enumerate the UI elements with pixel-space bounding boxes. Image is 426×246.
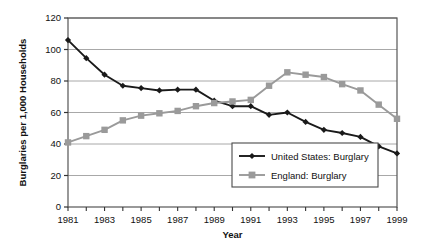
data-point <box>65 139 71 145</box>
y-tick-label: 80 <box>50 75 61 86</box>
x-tick-label: 1995 <box>313 214 334 225</box>
data-point <box>156 110 162 116</box>
x-tick-label: 1999 <box>386 214 407 225</box>
legend-label: England: Burglary <box>271 170 347 181</box>
x-tick-label: 1997 <box>350 214 371 225</box>
x-tick-label: 1985 <box>131 214 152 225</box>
data-point <box>83 133 89 139</box>
x-tick-label: 1987 <box>167 214 188 225</box>
data-point <box>394 116 400 122</box>
y-tick-label: 120 <box>45 12 61 23</box>
legend-label: United States: Burglary <box>271 151 369 162</box>
data-point <box>302 72 308 78</box>
data-point <box>357 87 363 93</box>
data-point <box>229 98 235 104</box>
y-axis-title: Burglaries per 1,000 Households <box>17 39 28 187</box>
y-tick-label: 0 <box>56 201 61 212</box>
y-tick-label: 40 <box>50 138 61 149</box>
legend[interactable]: United States: BurglaryEngland: Burglary <box>232 143 378 187</box>
data-point <box>321 74 327 80</box>
y-axis: 020406080100120 <box>45 12 68 212</box>
data-point <box>193 103 199 109</box>
y-tick-label: 60 <box>50 107 61 118</box>
x-tick-label: 1983 <box>94 214 115 225</box>
x-tick-label: 1991 <box>240 214 261 225</box>
data-point <box>101 127 107 133</box>
data-point <box>284 69 290 75</box>
x-axis-title: Year <box>222 229 242 240</box>
legend-marker <box>249 172 256 179</box>
data-point <box>248 97 254 103</box>
data-point <box>339 81 345 87</box>
y-tick-label: 20 <box>50 170 61 181</box>
x-tick-label: 1993 <box>277 214 298 225</box>
burglary-line-chart: 0204060801001201981198319851987198919911… <box>0 0 426 246</box>
data-point <box>138 112 144 118</box>
data-point <box>376 101 382 107</box>
chart-canvas: 0204060801001201981198319851987198919911… <box>0 0 426 246</box>
y-tick-label: 100 <box>45 44 61 55</box>
data-point <box>266 83 272 89</box>
x-tick-label: 1989 <box>204 214 225 225</box>
data-point <box>174 108 180 114</box>
x-tick-label: 1981 <box>57 214 78 225</box>
data-point <box>120 117 126 123</box>
x-axis: 1981198319851987198919911993199519971999 <box>57 207 407 225</box>
data-point <box>211 100 217 106</box>
